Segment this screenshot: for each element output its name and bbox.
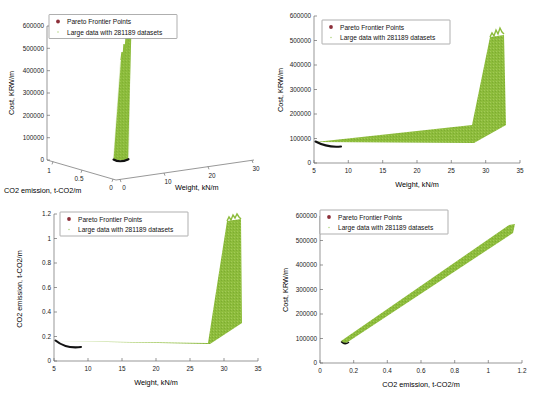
y-tick-label: 200000 <box>296 310 318 317</box>
legend-large-data-marker-icon <box>68 229 70 231</box>
z-axis-ticks-3d: 0 100000 200000 300000 400000 500000 600… <box>23 22 50 163</box>
legend-large-data-marker-icon <box>57 31 59 33</box>
z-tick-label: 600000 <box>23 22 45 29</box>
x-axis-ticks-co2-weight: 5 10 15 20 25 30 35 <box>52 358 262 372</box>
subplot-cost-vs-co2: 0 100000 200000 300000 400000 500000 600… <box>268 201 536 402</box>
x-tick-label: 0.4 <box>383 367 392 374</box>
z-tick-label: 200000 <box>23 112 45 119</box>
weight-tick-label: 30 <box>252 165 260 172</box>
x-tick-label: 0 <box>318 367 322 374</box>
y-tick-label: 400000 <box>296 261 318 268</box>
x-tick-label: 20 <box>152 365 160 372</box>
legend-cost-weight: Pareto Frontier Points Large data with 2… <box>322 20 450 44</box>
weight-tick-label: 20 <box>208 172 216 179</box>
subplot-3d-cost-weight-co2: 0 100000 200000 300000 400000 500000 600… <box>0 0 268 201</box>
y-axis-title-cost-co2: Cost, KRW/m <box>281 268 290 312</box>
legend-cost-co2: Pareto Frontier Points Large data with 2… <box>320 210 448 234</box>
y-tick-label: 1.2 <box>42 210 51 217</box>
x-tick-label: 5 <box>312 167 316 174</box>
y-axis-title-co2-weight: CO2 emission, t-CO2/m <box>15 250 24 327</box>
y-axis-title-cost-weight: Cost, KRW/m <box>276 68 285 112</box>
x-axis-title-cost-weight: Weight, kN/m <box>395 180 439 189</box>
x-tick-label: 10 <box>84 365 92 372</box>
co2-tick-label: 0 <box>109 184 113 191</box>
z-tick-label: 100000 <box>23 134 45 141</box>
data-cloud-3d <box>113 26 133 161</box>
x-tick-label: 35 <box>516 167 524 174</box>
x-tick-label: 15 <box>379 167 387 174</box>
x-tick-label: 1 <box>487 367 491 374</box>
co2-tick-label: 1 <box>47 167 51 174</box>
y-tick-label: 200000 <box>290 110 312 117</box>
x-tick-label: 0.2 <box>349 367 358 374</box>
plot-canvas-cost-co2: 0 100000 200000 300000 400000 500000 600… <box>268 201 536 402</box>
x-tick-label: 25 <box>186 365 194 372</box>
pareto-frontier-curve-cost-weight <box>316 142 342 147</box>
legend-large-data-label: Large data with 281189 datasets <box>340 34 436 42</box>
legend-large-data-label: Large data with 281189 datasets <box>78 226 174 234</box>
subplot-cost-vs-weight: 0 100000 200000 300000 400000 500000 600… <box>268 0 536 201</box>
legend-pareto-marker-icon <box>329 25 333 29</box>
plot-canvas-cost-weight: 0 100000 200000 300000 400000 500000 600… <box>268 0 536 201</box>
z-tick-label: 400000 <box>23 67 45 74</box>
x-tick-label: 25 <box>448 167 456 174</box>
x-axis-title-cost-co2: CO2 emission, t-CO2/m <box>382 380 459 389</box>
legend-pareto-label: Pareto Frontier Points <box>67 18 132 25</box>
axes-3d: 0 100000 200000 300000 400000 500000 600… <box>23 22 260 191</box>
legend-pareto-label: Pareto Frontier Points <box>78 216 143 223</box>
x-tick-label: 20 <box>413 167 421 174</box>
x-tick-label: 30 <box>482 167 490 174</box>
y-tick-label: 0 <box>307 159 311 166</box>
x-tick-label: 0.8 <box>450 367 459 374</box>
legend-pareto-label: Pareto Frontier Points <box>340 24 405 31</box>
legend-pareto-marker-icon <box>327 215 331 219</box>
x-axis-ticks-cost-weight: 5 10 15 20 25 30 35 <box>312 160 524 174</box>
y-tick-label: 0.4 <box>42 308 51 315</box>
y-tick-label: 100000 <box>290 135 312 142</box>
data-cloud-cost-co2 <box>341 224 515 345</box>
figure-four-subplot-pareto: 0 100000 200000 300000 400000 500000 600… <box>0 0 536 403</box>
x-tick-label: 10 <box>345 167 353 174</box>
y-tick-label: 500000 <box>290 37 312 44</box>
data-cloud-cost-weight <box>316 28 507 143</box>
x-tick-label: 30 <box>220 365 228 372</box>
x-tick-label: 5 <box>52 365 56 372</box>
legend-pareto-marker-icon <box>67 217 71 221</box>
y-tick-label: 300000 <box>290 86 312 93</box>
legend-large-data-label: Large data with 281189 datasets <box>67 29 163 37</box>
y-tick-label: 300000 <box>296 286 318 293</box>
x-tick-label: 1.2 <box>518 367 527 374</box>
pareto-frontier-curve-co2-weight <box>56 341 82 348</box>
y-tick-label: 0 <box>313 359 317 366</box>
y-tick-label: 0.6 <box>42 284 51 291</box>
legend-large-data-marker-icon <box>330 37 332 39</box>
y-tick-label: 500000 <box>296 237 318 244</box>
y-tick-label: 0 <box>47 357 51 364</box>
legend-large-data-label: Large data with 281189 datasets <box>338 224 434 232</box>
y-axis-ticks-cost-co2: 0 100000 200000 300000 400000 500000 600… <box>296 212 323 366</box>
subplot-co2-vs-weight: 0 0.2 0.4 0.6 0.8 1 1.2 5 <box>0 201 268 402</box>
y-tick-label: 1 <box>47 235 51 242</box>
y-tick-label: 100000 <box>296 335 318 342</box>
y-tick-label: 600000 <box>290 12 312 19</box>
plot-canvas-3d: 0 100000 200000 300000 400000 500000 600… <box>0 0 268 201</box>
y-tick-label: 600000 <box>296 212 318 219</box>
x-tick-label: 0.6 <box>417 367 426 374</box>
legend-pareto-label: Pareto Frontier Points <box>338 214 403 221</box>
y-axis-ticks-cost-weight: 0 100000 200000 300000 400000 500000 600… <box>290 12 317 166</box>
y-tick-label: 0.8 <box>42 259 51 266</box>
x-axis-ticks-cost-co2: 0 0.2 0.4 0.6 0.8 1 1.2 <box>318 360 527 374</box>
y-tick-label: 400000 <box>290 61 312 68</box>
weight-axis-title-3d: Weight, kN/m <box>175 183 219 192</box>
z-tick-label: 500000 <box>23 45 45 52</box>
weight-tick-label: 10 <box>164 178 172 185</box>
co2-axis-title-3d: CO2 emission, t-CO2/m <box>4 186 81 195</box>
z-tick-label: 300000 <box>23 89 45 96</box>
weight-tick-label: 0 <box>122 184 126 191</box>
x-tick-label: 15 <box>118 365 126 372</box>
plot-canvas-co2-weight: 0 0.2 0.4 0.6 0.8 1 1.2 5 <box>0 201 268 402</box>
legend-co2-weight: Pareto Frontier Points Large data with 2… <box>60 212 188 236</box>
legend-large-data-marker-icon <box>328 227 330 229</box>
y-tick-label: 0.2 <box>42 333 51 340</box>
x-tick-label: 35 <box>254 365 262 372</box>
